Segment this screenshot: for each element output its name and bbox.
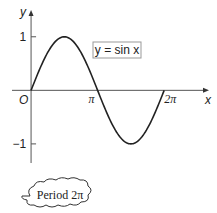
x-axis-label: x — [204, 93, 212, 107]
x-tick-label: 2π — [164, 92, 177, 106]
origin-label: O — [19, 93, 28, 107]
y-axis-arrow — [29, 10, 34, 16]
x-tick-label: π — [89, 92, 96, 106]
y-axis-label: y — [19, 5, 27, 19]
annotation-label: Period 2π — [37, 188, 83, 202]
y-tick-label: 1 — [19, 30, 26, 44]
y-tick-label: −1 — [12, 137, 26, 151]
sine-chart: 1−1π2π x y O y = sin x Period 2π — [0, 0, 217, 213]
x-axis-arrow — [203, 88, 209, 93]
function-label: y = sin x — [95, 43, 139, 57]
